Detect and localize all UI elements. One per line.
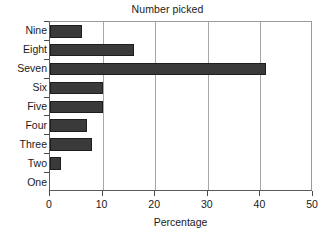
y-tick-label-one: One <box>0 176 47 188</box>
x-tick-mark-50 <box>312 191 313 196</box>
y-tick-label-nine: Nine <box>0 24 47 36</box>
bar-series <box>50 22 311 190</box>
x-tick-mark-20 <box>154 191 155 196</box>
bar-nine <box>50 25 82 38</box>
x-tick-mark-30 <box>207 191 208 196</box>
x-tick-label-0: 0 <box>29 198 69 210</box>
bar-row <box>50 173 311 192</box>
bar-five <box>50 101 103 114</box>
x-tick-label-10: 10 <box>82 198 122 210</box>
bar-two <box>50 157 61 170</box>
bar-row <box>50 60 311 79</box>
plot-area <box>49 21 312 191</box>
x-tick-label-20: 20 <box>134 198 174 210</box>
bar-four <box>50 119 87 132</box>
x-tick-label-50: 50 <box>292 198 332 210</box>
x-axis-title: Percentage <box>49 216 312 229</box>
y-tick-label-three: Three <box>0 138 47 150</box>
bar-seven <box>50 63 266 76</box>
bar-row <box>50 79 311 98</box>
y-tick-mark <box>44 153 49 154</box>
x-tick-mark-10 <box>102 191 103 196</box>
y-tick-label-six: Six <box>0 81 47 93</box>
bar-row <box>50 22 311 41</box>
y-tick-label-seven: Seven <box>0 62 47 74</box>
bar-three <box>50 138 92 151</box>
y-tick-mark <box>44 97 49 98</box>
bar-chart: Number picked NineEightSevenSixFiveFourT… <box>0 0 335 239</box>
bar-eight <box>50 44 134 57</box>
bar-six <box>50 82 103 95</box>
y-tick-label-eight: Eight <box>0 43 47 55</box>
x-tick-label-40: 40 <box>239 198 279 210</box>
bar-row <box>50 154 311 173</box>
y-tick-mark <box>44 115 49 116</box>
y-tick-label-two: Two <box>0 157 47 169</box>
bar-row <box>50 41 311 60</box>
bar-row <box>50 98 311 117</box>
x-tick-mark-0 <box>49 191 50 196</box>
bar-row <box>50 116 311 135</box>
y-tick-mark <box>44 40 49 41</box>
chart-title: Number picked <box>0 3 335 16</box>
y-tick-mark <box>44 21 49 22</box>
y-tick-label-five: Five <box>0 100 47 112</box>
y-tick-mark <box>44 78 49 79</box>
x-tick-label-30: 30 <box>187 198 227 210</box>
y-tick-mark <box>44 134 49 135</box>
y-tick-mark <box>44 172 49 173</box>
x-tick-mark-40 <box>259 191 260 196</box>
bar-row <box>50 135 311 154</box>
y-tick-mark <box>44 59 49 60</box>
y-tick-label-four: Four <box>0 119 47 131</box>
